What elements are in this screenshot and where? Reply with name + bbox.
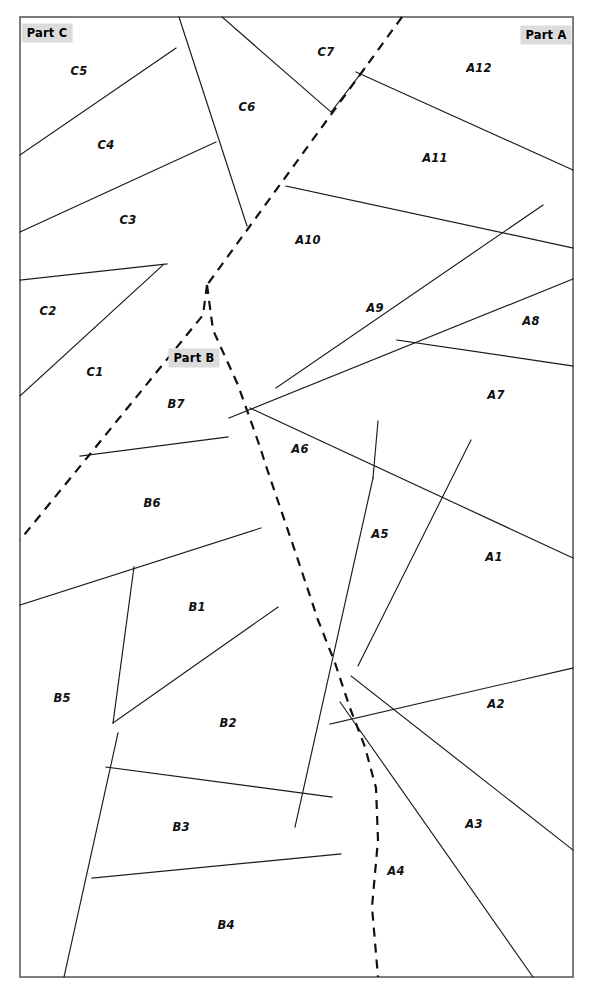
cell-label-a10: A10 xyxy=(295,233,321,247)
cell-label-a9: A9 xyxy=(366,301,383,315)
cell-label-b5: B5 xyxy=(53,691,70,705)
cell-label-b1: B1 xyxy=(188,600,205,614)
cell-label-a1: A1 xyxy=(485,550,502,564)
cell-label-a2: A2 xyxy=(487,697,504,711)
cell-label-c1: C1 xyxy=(87,365,104,379)
cell-label-c5: C5 xyxy=(71,64,88,78)
cell-label-a4: A4 xyxy=(387,864,404,878)
partition-diagram-canvas: A1A2A3A4A5A6A7A8A9A10A11A12B1B2B3B4B5B6B… xyxy=(0,0,594,994)
partition-diagram-svg xyxy=(0,0,594,994)
cell-label-a5: A5 xyxy=(371,527,388,541)
cell-label-b4: B4 xyxy=(217,918,234,932)
part-label-c: Part C xyxy=(22,24,73,43)
cell-label-b2: B2 xyxy=(219,716,236,730)
cell-label-a6: A6 xyxy=(291,442,308,456)
cell-label-b6: B6 xyxy=(143,496,160,510)
cell-label-a8: A8 xyxy=(522,314,539,328)
cell-label-a11: A11 xyxy=(422,151,448,165)
cell-label-c3: C3 xyxy=(120,213,137,227)
cell-label-c7: C7 xyxy=(318,45,335,59)
cell-label-c2: C2 xyxy=(40,304,57,318)
cell-label-c4: C4 xyxy=(98,138,115,152)
cell-label-b7: B7 xyxy=(167,397,184,411)
cell-label-b3: B3 xyxy=(172,820,189,834)
part-label-b: Part B xyxy=(168,349,219,368)
part-label-a: Part A xyxy=(520,26,571,45)
cell-label-a7: A7 xyxy=(487,388,504,402)
cell-label-c6: C6 xyxy=(239,100,256,114)
cell-label-a3: A3 xyxy=(465,817,482,831)
cell-label-a12: A12 xyxy=(466,61,492,75)
